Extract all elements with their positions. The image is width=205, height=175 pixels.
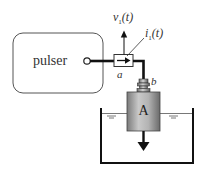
sensor-box (114, 55, 133, 67)
current-label: i1(t) (145, 26, 163, 42)
pulser-label: pulser (33, 53, 68, 68)
current-leader-line (127, 38, 144, 56)
diagram-canvas: pulser v1(t) i1(t) a b (0, 0, 205, 175)
voltage-arrow-icon (121, 31, 127, 38)
voltage-label: v1(t) (113, 10, 133, 26)
cable-segment-2 (133, 61, 144, 80)
transducer-body: A (127, 92, 160, 131)
transducer-connector (137, 79, 150, 92)
node-a-label: a (117, 68, 123, 80)
transducer-label: A (138, 103, 149, 118)
emission-arrow-icon (138, 142, 150, 151)
node-b-label: b (151, 75, 157, 87)
output-terminal-icon (84, 58, 90, 64)
